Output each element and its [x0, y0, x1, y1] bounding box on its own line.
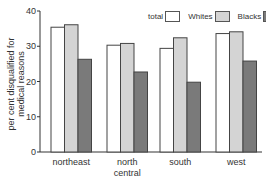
y-tick-label: 0 — [31, 147, 36, 157]
y-axis-label: per cent disqualified for medical reason… — [6, 14, 30, 154]
bar-whites-south — [174, 38, 188, 152]
bar-total-northeast — [51, 27, 65, 152]
y-axis-label-line-1: per cent disqualified for — [6, 14, 16, 154]
legend-swatch-total — [165, 11, 180, 22]
x-tick-label: northeast — [52, 157, 90, 167]
bar-whites-northeast — [65, 25, 79, 152]
bar-total-west — [216, 34, 230, 152]
bar-blacks-north-central — [134, 72, 148, 152]
bar-chart: 010203040northeastnorthcentralsouthwest — [0, 0, 266, 181]
x-tick-label: west — [226, 157, 246, 167]
x-tick-label: south — [169, 157, 191, 167]
bar-total-north-central — [107, 45, 121, 152]
legend-swatch-blacks — [263, 11, 266, 22]
legend-label-total: total — [148, 12, 163, 21]
y-axis-label-line-2: medical reasons — [16, 14, 26, 154]
bar-blacks-west — [243, 61, 257, 152]
bar-whites-north-central — [121, 43, 135, 152]
bar-blacks-northeast — [78, 59, 92, 152]
bar-total-south — [160, 48, 174, 152]
bar-blacks-south — [187, 82, 201, 152]
bar-whites-west — [230, 32, 244, 152]
x-tick-label: central — [114, 168, 141, 178]
legend: total Whites Blacks — [148, 11, 266, 22]
legend-label-whites: Whites — [188, 12, 212, 21]
legend-swatch-whites — [215, 11, 230, 22]
x-tick-label: north — [117, 157, 138, 167]
legend-label-blacks: Blacks — [238, 12, 262, 21]
